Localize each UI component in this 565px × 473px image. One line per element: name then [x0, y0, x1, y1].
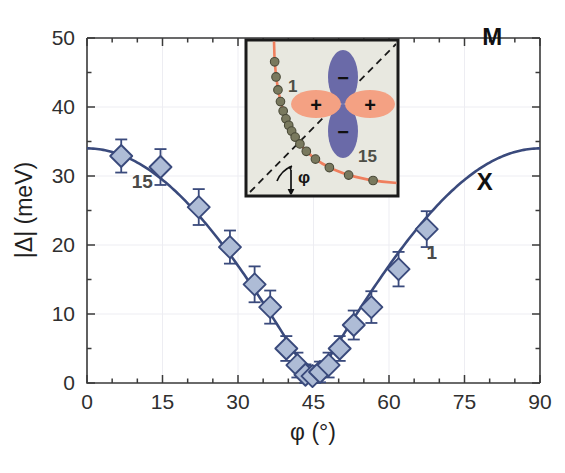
data-point-marker [188, 196, 210, 218]
data-point-marker [416, 218, 438, 240]
y-tick-label: 30 [52, 164, 75, 187]
x-axis-title: φ (°) [290, 419, 336, 445]
orbital-sign-right: + [364, 94, 376, 116]
y-tick-label: 20 [52, 233, 75, 256]
x-tick-label: 60 [377, 390, 400, 413]
y-tick-label: 50 [52, 26, 75, 49]
y-tick-label: 10 [52, 302, 75, 325]
fermi-surface-point [274, 86, 283, 95]
bz-point-x: X [477, 168, 493, 195]
x-tick-label: 30 [226, 390, 249, 413]
chart-svg: 0153045607590 01020304050 φ (°) |Δ| (meV… [0, 0, 565, 473]
fermi-surface-point [296, 140, 305, 149]
fermi-surface-point [272, 73, 281, 82]
fermi-surface-point [276, 97, 285, 106]
x-tick-labels: 0153045607590 [81, 390, 552, 413]
orbital-sign-left: + [310, 94, 322, 116]
inset-label-phi: φ [298, 168, 310, 187]
point-label-15-left: 15 [132, 171, 154, 192]
fermi-surface-point [369, 176, 378, 185]
data-point-marker [360, 296, 382, 318]
x-tick-label: 90 [528, 390, 551, 413]
y-tick-labels: 01020304050 [52, 26, 75, 394]
brillouin-zone-inset: − − + + 1 15 φ [246, 40, 398, 196]
fermi-surface-point [325, 163, 334, 172]
fermi-surface-point [270, 57, 279, 66]
bz-point-m: M [482, 23, 502, 50]
fermi-surface-point [311, 155, 320, 164]
orbital-sign-bottom: − [337, 121, 349, 143]
x-tick-label: 0 [81, 390, 93, 413]
figure-root: 0153045607590 01020304050 φ (°) |Δ| (meV… [0, 0, 565, 473]
x-tick-label: 15 [151, 390, 174, 413]
inset-label-last: 15 [358, 147, 377, 166]
data-point-marker [110, 145, 132, 167]
y-tick-label: 0 [63, 371, 75, 394]
x-tick-label: 45 [302, 390, 325, 413]
inset-label-first: 1 [288, 77, 297, 96]
fermi-surface-point [302, 147, 311, 156]
orbital-sign-top: − [337, 67, 349, 89]
y-axis-title: |Δ| (meV) [11, 162, 37, 258]
y-tick-label: 40 [52, 95, 75, 118]
x-tick-label: 75 [453, 390, 476, 413]
fermi-surface-point [344, 171, 353, 180]
point-label-1-right: 1 [426, 242, 437, 263]
